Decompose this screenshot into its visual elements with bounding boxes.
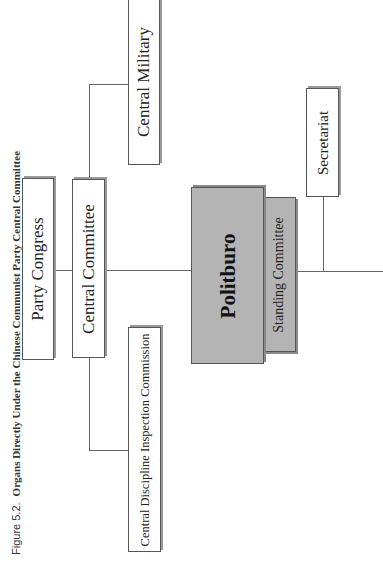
connector-secretariat-vertical bbox=[323, 197, 324, 271]
secretariat-box: Secretariat bbox=[306, 88, 339, 197]
figure-caption: Figure 5.2.Organs Directly Under the Chi… bbox=[10, 151, 22, 555]
connector-standing-to-right bbox=[296, 271, 383, 272]
standing-committee-box: Standing Committee bbox=[262, 197, 296, 352]
connector-cc-to-military-horizontal bbox=[89, 84, 128, 85]
connector-cc-to-cdic-vertical bbox=[89, 358, 90, 450]
standing-committee-label: Standing Committee bbox=[271, 217, 287, 333]
connector-cc-to-politburo bbox=[104, 270, 191, 271]
party-congress-label: Party Congress bbox=[28, 217, 48, 320]
connector-congress-to-cc bbox=[53, 270, 72, 271]
central-committee-box: Central Committee bbox=[72, 179, 105, 358]
connector-cc-to-military-vertical bbox=[89, 84, 90, 179]
central-committee-label: Central Committee bbox=[79, 204, 99, 334]
cdic-box: Central Discipline Inspection Commission bbox=[128, 327, 161, 552]
central-military-box: Central Military bbox=[128, 0, 160, 165]
secretariat-label: Secretariat bbox=[314, 110, 331, 174]
central-military-label: Central Military bbox=[134, 26, 154, 136]
politburo-label: Politburo bbox=[215, 233, 240, 318]
connector-cc-to-cdic-horizontal bbox=[89, 450, 128, 451]
party-congress-box: Party Congress bbox=[22, 178, 54, 360]
cdic-label: Central Discipline Inspection Commission bbox=[137, 333, 152, 546]
caption-title: Organs Directly Under the Chinese Commun… bbox=[10, 151, 22, 496]
politburo-box: Politburo bbox=[191, 187, 264, 364]
caption-label: Figure 5.2. bbox=[10, 502, 22, 555]
